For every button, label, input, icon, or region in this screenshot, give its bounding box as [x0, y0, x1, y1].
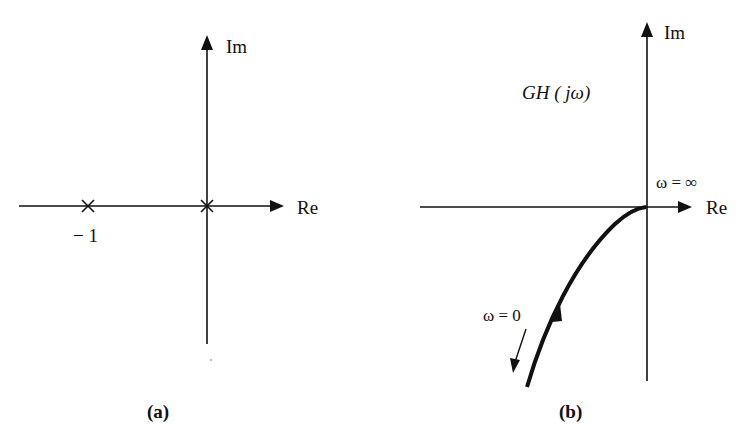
omega-zero-label: ω = 0 — [483, 307, 521, 324]
real-axis-arrow-icon — [678, 201, 692, 213]
panel-a — [19, 35, 284, 361]
speck — [210, 359, 212, 361]
function-label: GH ( jω) — [522, 83, 590, 102]
omega-zero-arrowhead-icon — [510, 358, 520, 373]
imag-axis-label-b: Im — [664, 23, 685, 42]
panel-b — [420, 22, 692, 387]
real-axis-label-a: Re — [297, 198, 318, 217]
imag-axis-arrow-icon — [201, 35, 213, 50]
imag-axis-arrow-icon — [641, 22, 653, 37]
imag-axis-label-a: Im — [226, 37, 247, 56]
pole-label-minus-one: − 1 — [73, 226, 98, 245]
nyquist-curve — [527, 207, 646, 387]
real-axis-label-b: Re — [706, 198, 727, 217]
caption-b: (b) — [559, 402, 582, 421]
real-axis-arrow-icon — [270, 200, 284, 212]
caption-a: (a) — [147, 402, 169, 421]
omega-zero-arrow — [515, 329, 526, 362]
figure-canvas — [0, 0, 745, 438]
omega-infinity-label: ω = ∞ — [656, 174, 697, 191]
